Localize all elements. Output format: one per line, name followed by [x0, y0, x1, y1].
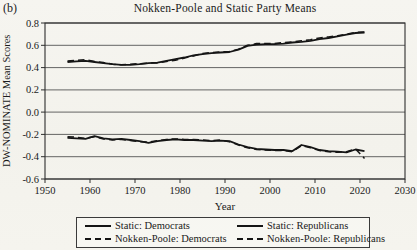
x-tick-label: 1970 — [125, 185, 146, 196]
series-nokken-poole-democrats — [68, 137, 365, 159]
x-axis-title: Year — [45, 200, 405, 212]
x-tick-label: 1990 — [215, 185, 236, 196]
legend-item-static-republicans: Static: Republicans — [237, 221, 385, 232]
dashed-line-sample-icon — [237, 238, 263, 240]
y-tick-label: -0.6 — [22, 174, 39, 185]
y-tick-label: 0.0 — [26, 107, 39, 118]
legend-item-static-democrats: Static: Democrats — [85, 221, 237, 232]
x-tick-label: 1980 — [170, 185, 191, 196]
x-tick-label: 2010 — [305, 185, 326, 196]
solid-line-sample-icon — [237, 225, 263, 227]
legend-label: Static: Republicans — [267, 221, 348, 232]
x-tick-label: 1950 — [35, 185, 56, 196]
y-tick-label: -0.4 — [22, 151, 39, 162]
chart-legend: Static: Democrats Static: Republicans No… — [76, 217, 370, 248]
x-tick-label: 2030 — [395, 185, 416, 196]
solid-line-sample-icon — [85, 225, 111, 227]
legend-label: Nokken-Poole: Democrats — [115, 234, 227, 245]
y-tick-label: 0.4 — [26, 62, 40, 73]
y-tick-label: 0.8 — [26, 18, 39, 29]
chart-canvas: 0.80.60.40.20.0-0.2-0.4-0.61950196019701… — [0, 0, 417, 198]
x-tick-label: 1960 — [80, 185, 101, 196]
y-tick-label: 0.2 — [26, 84, 39, 95]
figure-panel: (b) Nokken-Poole and Static Party Means … — [0, 0, 417, 250]
legend-item-nokken-poole-republicans: Nokken-Poole: Republicans — [237, 234, 385, 245]
series-static-democrats — [68, 136, 365, 152]
legend-item-nokken-poole-democrats: Nokken-Poole: Democrats — [85, 234, 237, 245]
x-tick-label: 2020 — [350, 185, 371, 196]
series-nokken-poole-republicans — [68, 32, 365, 65]
plot-frame — [45, 23, 405, 179]
y-tick-label: -0.2 — [22, 129, 39, 140]
dashed-line-sample-icon — [85, 238, 111, 240]
x-tick-label: 2000 — [260, 185, 281, 196]
y-tick-label: 0.6 — [26, 40, 39, 51]
legend-label: Nokken-Poole: Republicans — [267, 234, 385, 245]
legend-label: Static: Democrats — [115, 221, 190, 232]
